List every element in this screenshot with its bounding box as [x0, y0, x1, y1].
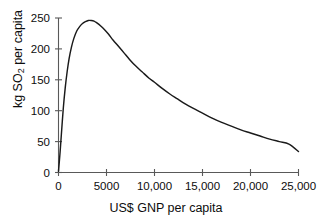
y-axis-title-subscript: 2: [16, 68, 26, 73]
x-tick-label: 10,000: [137, 180, 172, 192]
y-tick-label: 50: [8, 136, 50, 148]
y-tick-label: 0: [8, 167, 50, 179]
x-tick-label: 15,000: [185, 180, 220, 192]
chart-figure: 050100150200250 0500010,00015,00020,0002…: [0, 0, 332, 224]
y-axis-title-main: kg SO: [11, 73, 25, 108]
y-axis-title-tail: per capita: [11, 10, 25, 68]
x-tick-label: 25,000: [281, 180, 316, 192]
x-axis-title: US$ GNP per capita: [0, 201, 332, 215]
x-tick-label: 0: [55, 180, 61, 192]
x-tick-label: 5000: [94, 180, 120, 192]
y-axis-title: kg SO2 per capita: [11, 0, 25, 129]
x-tick-label: 20,000: [233, 180, 268, 192]
data-curve: [59, 20, 299, 171]
